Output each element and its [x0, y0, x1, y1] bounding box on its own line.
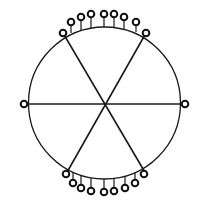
pendant-ring-icon	[88, 11, 95, 18]
pendant-ring-icon	[122, 185, 129, 192]
pendant-ring-icon	[111, 188, 118, 195]
spokes-group	[24, 33, 185, 174]
pendant-ring-icon	[101, 189, 108, 196]
pendant-ring-icon	[101, 11, 108, 18]
pendant-ring-icon	[133, 19, 140, 26]
end-ring-icon	[60, 30, 67, 37]
end-ring-icon	[63, 171, 70, 178]
end-ring-icon	[182, 101, 189, 108]
pendant-ring-icon	[132, 180, 139, 187]
pendant-ring-icon	[70, 180, 77, 187]
pendant-ring-icon	[68, 19, 75, 26]
pendant-ring-icon	[88, 188, 95, 195]
pendant-ring-icon	[121, 14, 128, 21]
end-ring-icon	[143, 30, 150, 37]
pendant-ring-icon	[111, 11, 118, 18]
end-ring-icon	[141, 171, 148, 178]
wheel-diagram	[0, 0, 199, 210]
end-ring-icon	[21, 101, 28, 108]
pendant-ring-icon	[78, 14, 85, 21]
pendant-ring-icon	[78, 185, 85, 192]
